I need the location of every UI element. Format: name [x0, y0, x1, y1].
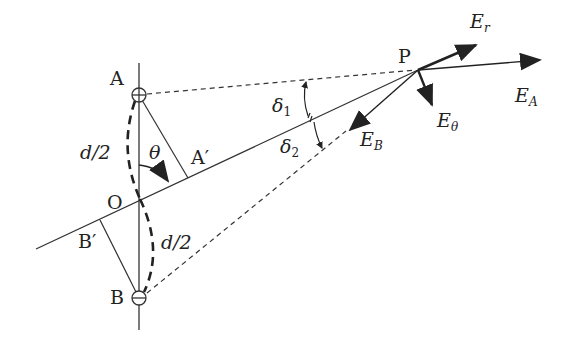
charge-A-positive: [132, 88, 146, 102]
Er-base: E: [470, 10, 484, 32]
arc-d2-bottom: [140, 199, 153, 292]
EA-sub: A: [529, 95, 538, 109]
Er-sub: r: [484, 21, 490, 35]
Etheta-sub: θ: [451, 120, 458, 134]
EB-base: E: [360, 128, 374, 150]
label-Er: Er: [470, 12, 490, 34]
label-d-half-top: d/2: [80, 143, 111, 162]
diagram-canvas: [0, 0, 571, 347]
vector-EB: [350, 70, 418, 130]
label-delta1: δ1: [272, 96, 291, 118]
vector-Etheta: [418, 70, 432, 105]
EA-base: E: [515, 84, 529, 106]
charge-B-negative: [132, 291, 146, 305]
delta1-sub: 1: [283, 105, 291, 119]
label-EB: EB: [360, 130, 383, 152]
arc-d2-top: [128, 101, 140, 199]
theta-arc: [139, 165, 168, 181]
delta1-arc: [304, 82, 308, 116]
label-P: P: [398, 47, 411, 66]
label-Etheta: Eθ: [437, 111, 458, 133]
Etheta-base: E: [437, 109, 451, 131]
label-theta: θ: [149, 143, 160, 162]
dashed-B-to-P: [147, 131, 346, 293]
perp-B-Bprime: [100, 220, 136, 292]
label-A-prime: A′: [191, 148, 209, 167]
label-O: O: [107, 193, 123, 212]
delta1-base: δ: [272, 94, 283, 116]
label-B-prime: B′: [78, 232, 96, 251]
EB-sub: B: [374, 139, 383, 153]
label-delta2: δ2: [280, 137, 299, 159]
label-B: B: [110, 288, 124, 307]
label-A: A: [110, 69, 124, 88]
label-EA: EA: [515, 86, 538, 108]
dipole-diagram: A A′ O B′ B P d/2 d/2 θ δ1 δ2 Er EA Eθ E…: [0, 0, 571, 347]
delta2-sub: 2: [291, 146, 299, 160]
perp-A-Aprime: [142, 100, 188, 178]
delta2-base: δ: [280, 135, 291, 157]
label-d-half-bottom: d/2: [161, 233, 192, 252]
delta2-arc: [314, 122, 322, 148]
